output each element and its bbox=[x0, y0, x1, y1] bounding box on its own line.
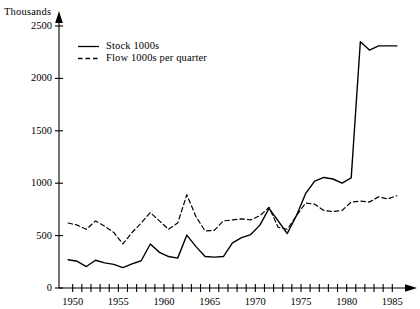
chart-plot-area bbox=[0, 0, 420, 309]
y-axis-title: Thousands bbox=[4, 7, 51, 18]
chart-container: Thousands 05001000150020002500 195019551… bbox=[0, 0, 420, 309]
x-axis-tick-label: 1980 bbox=[327, 297, 367, 308]
legend-label-1: Stock 1000s bbox=[106, 41, 159, 52]
legend-line-samples bbox=[78, 47, 99, 59]
x-axis-tick-label: 1985 bbox=[372, 297, 412, 308]
legend-label-2: Flow 1000s per quarter bbox=[106, 53, 207, 64]
y-axis-tick-label: 500 bbox=[8, 231, 52, 242]
y-axis-tick-label: 1000 bbox=[8, 178, 52, 189]
y-axis-tick-label: 2500 bbox=[8, 21, 52, 32]
x-axis-tick-label: 1965 bbox=[190, 297, 230, 308]
x-axis-arrowhead bbox=[405, 284, 417, 292]
data-series-group bbox=[68, 42, 397, 268]
y-axis-arrowhead bbox=[55, 11, 63, 23]
x-axis-tick-label: 1950 bbox=[53, 297, 93, 308]
x-axis-tick-label: 1960 bbox=[144, 297, 184, 308]
series-line-dashed bbox=[68, 195, 397, 244]
x-axis-tick-label: 1970 bbox=[235, 297, 275, 308]
y-axis-tick-label: 1500 bbox=[8, 126, 52, 137]
y-axis-tick-label: 0 bbox=[8, 283, 52, 294]
x-axis-tick-label: 1975 bbox=[281, 297, 321, 308]
x-axis-tick-label: 1955 bbox=[98, 297, 138, 308]
y-axis-tick-label: 2000 bbox=[8, 73, 52, 84]
series-line-solid bbox=[68, 42, 397, 268]
